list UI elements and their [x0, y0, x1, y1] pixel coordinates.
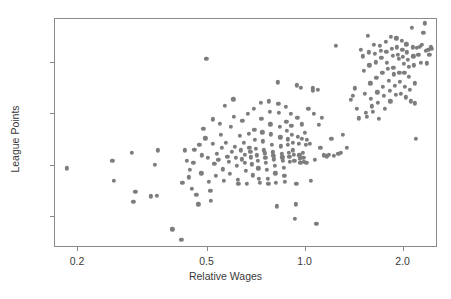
data-point [389, 34, 393, 38]
data-point [345, 145, 349, 149]
data-point [412, 81, 416, 85]
data-point [269, 132, 273, 136]
data-point [399, 39, 403, 43]
data-point [277, 125, 281, 129]
data-point [390, 46, 394, 50]
data-point [212, 161, 216, 165]
data-point [377, 117, 381, 121]
data-point [378, 44, 382, 48]
data-point [367, 63, 371, 67]
data-point [187, 168, 191, 172]
x-tick-mark [207, 247, 208, 251]
y-axis-label: League Points [9, 79, 21, 199]
data-point [261, 139, 265, 143]
data-point [244, 169, 248, 173]
data-point [400, 48, 404, 52]
data-point [381, 85, 385, 89]
data-point [170, 227, 174, 231]
data-point [281, 166, 285, 170]
data-point [200, 153, 204, 157]
data-point [427, 52, 431, 56]
data-point [192, 148, 196, 152]
data-point [365, 34, 369, 38]
x-tick-label: 1.0 [297, 255, 312, 267]
data-point [384, 50, 388, 54]
data-point [245, 182, 249, 186]
data-point [362, 69, 366, 73]
data-point [366, 50, 370, 54]
data-point [252, 127, 256, 131]
data-point [218, 122, 222, 126]
data-point [301, 151, 305, 155]
data-point [251, 173, 255, 177]
data-point [299, 122, 303, 126]
data-point [373, 52, 377, 56]
x-tick-label: 0.5 [199, 255, 214, 267]
data-point [246, 112, 250, 116]
data-point [258, 181, 262, 185]
data-point [274, 180, 278, 184]
data-point [357, 116, 361, 120]
data-point [369, 97, 373, 101]
scatter-plot-figure: League Points 20406080 0.20.51.02.0 Rela… [0, 0, 451, 299]
data-point [238, 134, 242, 138]
data-point [391, 66, 395, 70]
data-point [275, 204, 279, 208]
data-point [294, 182, 298, 186]
data-point [255, 153, 259, 157]
data-point [256, 166, 260, 170]
data-point [209, 199, 213, 203]
data-point [383, 107, 387, 111]
data-point [221, 167, 225, 171]
data-point [259, 100, 263, 104]
data-point [214, 174, 218, 178]
data-point [273, 171, 277, 175]
data-point [363, 91, 367, 95]
data-point [208, 188, 212, 192]
data-point [390, 53, 394, 57]
data-point [277, 111, 281, 115]
data-point [296, 142, 300, 146]
data-point [265, 167, 269, 171]
data-point [239, 148, 243, 152]
data-point [368, 81, 372, 85]
data-point [341, 133, 345, 137]
data-point [210, 117, 214, 121]
data-point [211, 142, 215, 146]
data-point [65, 166, 69, 170]
data-point [255, 158, 259, 162]
data-point [133, 190, 137, 194]
data-point [405, 50, 409, 54]
data-point [292, 153, 296, 157]
data-point [129, 151, 133, 155]
data-point [422, 21, 426, 25]
data-point [371, 109, 375, 113]
data-point [227, 172, 231, 176]
data-point [402, 71, 406, 75]
data-point [412, 63, 416, 67]
data-point [401, 62, 405, 66]
data-point [303, 131, 307, 135]
data-point [273, 164, 277, 168]
data-point [413, 101, 417, 105]
data-point [131, 200, 135, 204]
x-tick-mark [305, 247, 306, 251]
data-point [219, 133, 223, 137]
data-point [313, 158, 317, 162]
data-point [295, 116, 299, 120]
data-point [278, 135, 282, 139]
data-point [416, 53, 420, 57]
data-point [398, 80, 402, 84]
data-point [197, 143, 201, 147]
data-point [420, 43, 424, 47]
data-point [290, 140, 294, 144]
data-point [374, 76, 378, 80]
data-point [281, 159, 285, 163]
data-point [260, 130, 264, 134]
data-point [268, 122, 272, 126]
data-point [207, 180, 211, 184]
data-point [401, 55, 405, 59]
data-point [329, 136, 333, 140]
data-point [407, 75, 411, 79]
data-point [404, 42, 408, 46]
